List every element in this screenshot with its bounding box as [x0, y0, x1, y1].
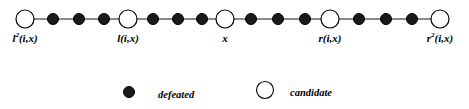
- open-circle-icon: [254, 79, 276, 105]
- node-defeated: [148, 14, 159, 25]
- node-defeated: [99, 14, 110, 25]
- node-defeated: [407, 14, 418, 25]
- node-candidate: [119, 10, 137, 28]
- node-label-args: (i,x): [323, 32, 342, 44]
- legend-label-candidate: candidate: [290, 87, 332, 98]
- node-candidate: [16, 10, 34, 28]
- filled-circle-icon: [120, 83, 138, 105]
- node-label: x: [222, 33, 228, 44]
- legend-entry-defeated: defeated: [120, 84, 194, 104]
- legend: defeated candidate: [0, 80, 469, 109]
- node-defeated: [273, 14, 284, 25]
- node-label: l2(i,x): [12, 33, 37, 44]
- node-label-args: (i,x): [120, 32, 139, 44]
- node-defeated: [173, 14, 184, 25]
- node-candidate: [431, 10, 449, 28]
- node-defeated: [48, 14, 59, 25]
- legend-entry-candidate: candidate: [254, 82, 332, 102]
- node-defeated: [381, 14, 392, 25]
- figure-container: l2(i,x)l(i,x)xr(i,x)r2(i,x) defeated can…: [0, 0, 469, 109]
- node-label-args: (i,x): [19, 32, 38, 44]
- node-defeated: [197, 14, 208, 25]
- node-defeated: [246, 14, 257, 25]
- node-label: r2(i,x): [427, 33, 453, 44]
- legend-label-defeated: defeated: [158, 89, 194, 100]
- node-label: r(i,x): [319, 33, 342, 44]
- node-defeated: [354, 14, 365, 25]
- node-candidate: [216, 10, 234, 28]
- node-defeated: [300, 14, 311, 25]
- node-defeated: [74, 14, 85, 25]
- node-label-args: (i,x): [435, 32, 454, 44]
- node-label-base: x: [222, 32, 228, 44]
- node-label: l(i,x): [117, 33, 139, 44]
- node-candidate: [321, 10, 339, 28]
